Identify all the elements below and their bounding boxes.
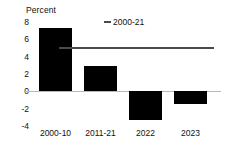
y-tick-label: -4 xyxy=(21,122,29,131)
y-axis-title: Percent xyxy=(26,5,56,15)
y-tick-label: 8 xyxy=(24,18,29,27)
x-tick-label: 2023 xyxy=(181,128,200,138)
y-tick-label: 6 xyxy=(24,35,29,44)
x-tick-label: 2011-21 xyxy=(85,128,116,138)
bar xyxy=(84,66,117,91)
plot-area: 86420-2-4 xyxy=(33,22,213,126)
y-tick-label: -2 xyxy=(21,104,29,113)
bar xyxy=(174,91,207,104)
x-tick-label: 2022 xyxy=(136,128,155,138)
bar xyxy=(39,28,72,91)
bar-chart: Percent 2000-21 86420-2-4 2000-102011-21… xyxy=(0,0,241,144)
bar xyxy=(129,91,162,120)
reference-line-2000-21 xyxy=(59,47,215,48)
x-tick-label: 2000-10 xyxy=(40,128,71,138)
y-tick-label: 4 xyxy=(24,52,29,61)
y-tick-label: 2 xyxy=(24,70,29,79)
